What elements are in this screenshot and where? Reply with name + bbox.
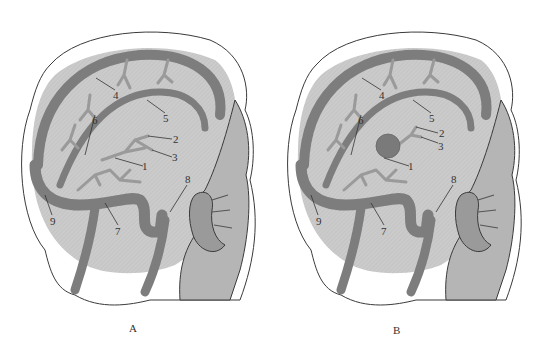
head-vasculature-illustration-a: 4 5 2 3 1 6 7 8 9 [0, 0, 270, 350]
label-7: 7 [381, 225, 387, 237]
head-vasculature-illustration-b: 4 5 2 3 1 6 7 8 9 [266, 0, 536, 350]
label-2: 2 [439, 127, 445, 139]
label-4: 4 [113, 89, 119, 101]
label-9: 9 [50, 215, 56, 227]
panel-caption-a: A [129, 322, 137, 334]
label-6: 6 [358, 114, 364, 126]
label-7: 7 [115, 225, 121, 237]
aneurysm [376, 134, 400, 158]
label-1: 1 [408, 160, 414, 172]
label-2: 2 [173, 133, 179, 145]
label-8: 8 [451, 173, 457, 185]
label-3: 3 [172, 151, 178, 163]
label-5: 5 [429, 112, 435, 124]
label-1: 1 [142, 160, 148, 172]
panel-caption-b: B [393, 324, 400, 336]
panel-a: 4 5 2 3 1 6 7 8 9 A [0, 0, 270, 350]
label-5: 5 [163, 112, 169, 124]
label-3: 3 [438, 140, 444, 152]
label-4: 4 [379, 89, 385, 101]
label-8: 8 [185, 173, 191, 185]
label-9: 9 [316, 215, 322, 227]
panel-b: 4 5 2 3 1 6 7 8 9 B [266, 0, 536, 350]
label-6: 6 [92, 114, 98, 126]
